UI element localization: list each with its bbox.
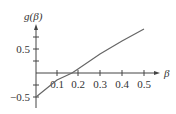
x-tick-label: 0.4	[115, 78, 129, 90]
y-tick-label: −0.5	[10, 91, 30, 103]
x-axis-label: β	[163, 67, 170, 79]
y-axis-label: g(β)	[24, 10, 43, 23]
y-axis-arrow-icon	[34, 24, 38, 30]
x-tick-label: 0.3	[93, 78, 107, 90]
y-tick-label: 0.5	[16, 43, 30, 55]
x-axis-arrow-icon	[154, 71, 160, 75]
x-tick-label: 0.2	[71, 78, 85, 90]
x-tick-label: 0.5	[137, 78, 151, 90]
line-chart: 0.5 −0.5 0.1 0.2 0.3 0.4 0.5 β g(β)	[0, 0, 176, 114]
